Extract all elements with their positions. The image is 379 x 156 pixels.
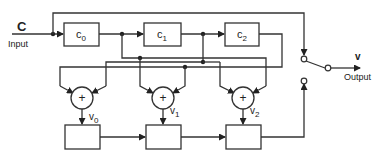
input-symbol: C bbox=[17, 19, 27, 34]
decoded-wire bbox=[261, 84, 304, 137]
output-label: Output bbox=[344, 72, 372, 82]
register-c0: c0 bbox=[64, 23, 99, 46]
selector-box-1 bbox=[146, 125, 181, 149]
svg-text:+: + bbox=[78, 91, 85, 105]
input-label: Input bbox=[8, 39, 29, 49]
register-c1: c1 bbox=[144, 23, 181, 46]
block-diagram: C Input c0 c1 c2 + + bbox=[0, 0, 379, 156]
output-symbol: v bbox=[355, 51, 361, 62]
adder-0: + bbox=[71, 87, 93, 109]
register-c2: c2 bbox=[225, 23, 259, 46]
svg-text:+: + bbox=[239, 91, 246, 105]
svg-text:+: + bbox=[159, 91, 166, 105]
selector-box-2 bbox=[226, 125, 261, 149]
diagram-svg: C Input c0 c1 c2 + + bbox=[0, 0, 379, 156]
selector-box-0 bbox=[65, 125, 100, 149]
v1-label: v1 bbox=[170, 105, 180, 119]
v0-label: v0 bbox=[89, 111, 99, 125]
v2-label: v2 bbox=[250, 105, 260, 119]
